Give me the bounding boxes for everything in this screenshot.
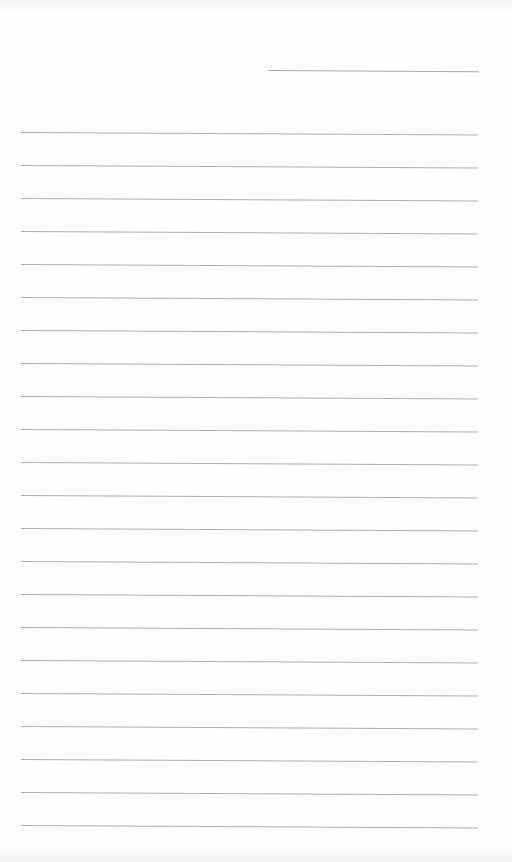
ruled-line xyxy=(21,726,478,729)
ruled-line xyxy=(21,594,478,597)
ruled-line xyxy=(21,429,478,432)
ruled-line xyxy=(21,528,478,531)
ruled-line xyxy=(21,132,478,135)
ruled-line xyxy=(21,198,478,201)
ruled-line xyxy=(21,396,478,399)
ruled-line xyxy=(21,792,478,795)
ruled-line xyxy=(21,363,478,366)
ruled-line xyxy=(21,825,478,828)
ruled-line xyxy=(21,165,478,168)
ruled-line xyxy=(21,495,478,498)
ruled-line xyxy=(21,264,478,267)
lined-paper-page xyxy=(0,0,512,862)
ruled-line xyxy=(21,561,478,564)
ruled-line xyxy=(21,627,478,630)
ruled-line xyxy=(21,660,478,663)
ruled-line xyxy=(21,693,478,696)
ruled-line xyxy=(21,330,478,333)
bleed-through-top xyxy=(0,0,512,14)
ruled-line xyxy=(21,759,478,762)
ruled-line xyxy=(21,297,478,300)
ruled-line xyxy=(21,231,478,234)
ruled-line xyxy=(21,462,478,465)
header-write-line xyxy=(268,70,479,72)
bleed-through-bottom xyxy=(0,848,512,862)
